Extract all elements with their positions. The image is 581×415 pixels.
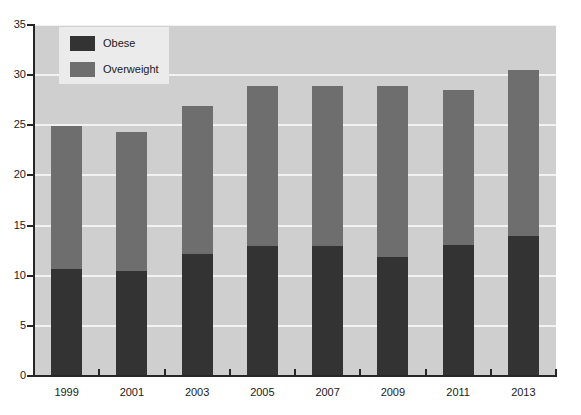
y-axis-tick-label: 10 <box>0 270 26 281</box>
x-axis-tick-label: 2001 <box>102 386 162 398</box>
bar-segment-obese[interactable] <box>377 257 408 376</box>
bar-segment-overweight[interactable] <box>443 90 474 244</box>
bar-segment-obese[interactable] <box>51 269 82 376</box>
legend-item-label: Overweight <box>103 63 159 76</box>
bar-stack[interactable] <box>312 25 343 376</box>
chart-legend: ObeseOverweight <box>59 27 169 84</box>
stacked-bar-chart: 05101520253035 1999200120032005200720092… <box>0 0 581 415</box>
bar-segment-obese[interactable] <box>443 245 474 376</box>
bar-segment-overweight[interactable] <box>508 70 539 235</box>
x-axis-tick <box>98 369 100 376</box>
bar-segment-obese[interactable] <box>312 246 343 376</box>
x-axis-tick-label: 2009 <box>363 386 423 398</box>
y-axis-tick-label: 25 <box>0 119 26 130</box>
gridline <box>34 25 556 26</box>
x-axis-tick <box>490 369 492 376</box>
bar-segment-overweight[interactable] <box>182 106 213 253</box>
bar-stack[interactable] <box>182 25 213 376</box>
y-axis-tick-label: 5 <box>0 320 26 331</box>
y-axis-tick-label: 35 <box>0 19 26 30</box>
x-axis-tick <box>425 369 427 376</box>
x-axis-tick-label: 2011 <box>428 386 488 398</box>
bar-segment-overweight[interactable] <box>377 86 408 256</box>
x-axis-tick-label: 2005 <box>232 386 292 398</box>
gridline <box>34 174 556 176</box>
bar-stack[interactable] <box>443 25 474 376</box>
y-axis-tick-label: 0 <box>0 370 26 381</box>
legend-swatch-icon <box>70 62 95 77</box>
bar-stack[interactable] <box>247 25 278 376</box>
x-axis-tick-label: 2007 <box>298 386 358 398</box>
y-axis-tick <box>27 74 34 76</box>
bar-segment-overweight[interactable] <box>247 86 278 245</box>
y-axis-tick <box>27 275 34 277</box>
x-axis-tick <box>229 369 231 376</box>
y-axis-tick <box>27 124 34 126</box>
x-axis-tick-label: 2013 <box>493 386 553 398</box>
x-axis-tick <box>164 369 166 376</box>
x-axis-tick <box>359 369 361 376</box>
y-axis-tick <box>27 225 34 227</box>
bar-stack[interactable] <box>508 25 539 376</box>
y-axis-tick <box>27 325 34 327</box>
bar-segment-overweight[interactable] <box>116 132 147 270</box>
gridline <box>34 225 556 227</box>
bar-segment-obese[interactable] <box>182 254 213 376</box>
y-axis-tick-label: 15 <box>0 220 26 231</box>
x-axis-tick-label: 1999 <box>37 386 97 398</box>
x-axis-tick <box>555 369 557 376</box>
bar-segment-overweight[interactable] <box>312 86 343 245</box>
legend-swatch-icon <box>70 36 95 51</box>
gridline <box>34 124 556 126</box>
x-axis-tick-label: 2003 <box>167 386 227 398</box>
legend-item-label: Obese <box>103 37 135 50</box>
y-axis-tick-label: 20 <box>0 169 26 180</box>
bar-stack[interactable] <box>377 25 408 376</box>
bar-segment-obese[interactable] <box>508 236 539 376</box>
bar-segment-obese[interactable] <box>247 246 278 376</box>
x-axis-tick <box>294 369 296 376</box>
y-axis-tick-label: 30 <box>0 69 26 80</box>
bar-segment-obese[interactable] <box>116 271 147 376</box>
gridline <box>34 275 556 277</box>
bar-segment-overweight[interactable] <box>51 126 82 268</box>
y-axis-tick <box>27 375 34 377</box>
gridline <box>34 325 556 327</box>
y-axis-tick <box>27 24 34 26</box>
y-axis-tick <box>27 174 34 176</box>
